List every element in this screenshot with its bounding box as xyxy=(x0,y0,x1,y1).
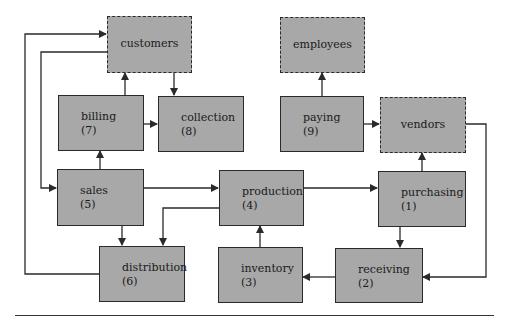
process-label: billing xyxy=(81,110,116,123)
process-label: collection xyxy=(181,111,235,124)
entity-label: customers xyxy=(121,37,179,50)
process-label: production xyxy=(242,185,303,198)
arrow-distribution-customers xyxy=(25,34,106,274)
arrow-production-distribution xyxy=(163,208,219,245)
process-purchasing: purchasing (1) xyxy=(378,171,466,227)
process-receiving: receiving (2) xyxy=(335,248,423,303)
process-distribution: distribution (6) xyxy=(99,246,185,302)
process-billing: billing (7) xyxy=(58,95,144,151)
process-inventory: inventory (3) xyxy=(218,247,303,303)
bottom-rule xyxy=(15,315,494,316)
process-number: (7) xyxy=(81,124,97,137)
process-sales: sales (5) xyxy=(57,169,144,226)
entity-customers: customers xyxy=(107,16,192,73)
process-label: purchasing xyxy=(401,186,463,199)
process-number: (8) xyxy=(181,125,197,138)
process-number: (9) xyxy=(303,125,319,138)
process-label: inventory xyxy=(241,262,294,275)
process-number: (6) xyxy=(122,275,138,288)
process-label: receiving xyxy=(358,263,410,276)
process-number: (4) xyxy=(242,199,258,212)
entity-employees: employees xyxy=(280,17,365,73)
entity-label: vendors xyxy=(401,118,445,131)
process-number: (1) xyxy=(401,200,417,213)
process-number: (2) xyxy=(358,277,374,290)
entity-label: employees xyxy=(293,38,352,51)
process-label: paying xyxy=(303,111,340,124)
process-label: distribution xyxy=(122,261,187,274)
process-number: (3) xyxy=(241,276,257,289)
process-collection: collection (8) xyxy=(158,96,244,152)
process-label: sales xyxy=(80,184,108,197)
process-production: production (4) xyxy=(219,170,304,226)
process-number: (5) xyxy=(80,198,96,211)
entity-vendors: vendors xyxy=(380,97,466,153)
process-paying: paying (9) xyxy=(280,96,364,152)
